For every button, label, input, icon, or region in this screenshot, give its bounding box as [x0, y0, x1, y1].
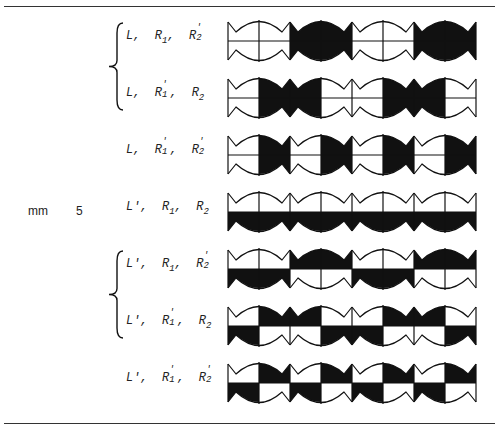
empty-quadrant: [414, 155, 445, 174]
empty-quadrant: [290, 326, 321, 345]
empty-quadrant: [383, 41, 414, 60]
empty-quadrant: [445, 269, 476, 288]
empty-quadrant: [383, 22, 414, 42]
empty-quadrant: [414, 364, 445, 384]
filled-quadrant: [414, 383, 445, 402]
empty-quadrant: [228, 41, 259, 60]
empty-quadrant: [228, 136, 259, 156]
empty-quadrant: [383, 193, 414, 213]
filled-quadrant: [321, 326, 352, 345]
filled-quadrant: [383, 79, 414, 99]
empty-quadrant: [290, 269, 321, 288]
empty-quadrant: [228, 22, 259, 42]
empty-quadrant: [290, 155, 321, 174]
filled-quadrant: [414, 98, 445, 117]
filled-quadrant: [445, 326, 476, 345]
filled-quadrant: [290, 383, 321, 402]
filled-quadrant: [228, 383, 259, 402]
empty-quadrant: [259, 383, 290, 402]
filled-quadrant: [321, 41, 352, 60]
filled-quadrant: [383, 155, 414, 174]
filled-quadrant: [228, 212, 259, 231]
filled-quadrant: [383, 269, 414, 288]
empty-quadrant: [259, 326, 290, 345]
filled-quadrant: [321, 250, 352, 270]
filled-quadrant: [321, 136, 352, 156]
empty-quadrant: [228, 250, 259, 270]
empty-quadrant: [352, 98, 383, 117]
empty-quadrant: [383, 383, 414, 402]
filled-quadrant: [383, 98, 414, 117]
filled-quadrant: [259, 98, 290, 117]
filled-quadrant: [445, 155, 476, 174]
filled-quadrant: [352, 383, 383, 402]
filled-quadrant: [414, 250, 445, 270]
empty-quadrant: [352, 41, 383, 60]
frieze-strip: [228, 20, 476, 62]
frieze-strip: [228, 362, 476, 404]
filled-quadrant: [445, 22, 476, 42]
filled-quadrant: [352, 326, 383, 345]
empty-quadrant: [414, 326, 445, 345]
filled-quadrant: [383, 136, 414, 156]
frieze-strip: [228, 248, 476, 290]
filled-quadrant: [259, 212, 290, 231]
filled-quadrant: [414, 212, 445, 231]
filled-quadrant: [290, 79, 321, 99]
filled-quadrant: [445, 212, 476, 231]
filled-quadrant: [290, 98, 321, 117]
empty-quadrant: [352, 193, 383, 213]
filled-quadrant: [290, 250, 321, 270]
empty-quadrant: [259, 193, 290, 213]
filled-quadrant: [321, 155, 352, 174]
empty-quadrant: [321, 193, 352, 213]
filled-quadrant: [259, 79, 290, 99]
empty-quadrant: [259, 41, 290, 60]
filled-quadrant: [445, 364, 476, 384]
empty-quadrant: [352, 307, 383, 327]
filled-quadrant: [414, 22, 445, 42]
empty-quadrant: [228, 364, 259, 384]
empty-quadrant: [290, 193, 321, 213]
filled-quadrant: [259, 136, 290, 156]
empty-quadrant: [352, 22, 383, 42]
empty-quadrant: [445, 383, 476, 402]
empty-quadrant: [352, 136, 383, 156]
filled-quadrant: [259, 364, 290, 384]
empty-quadrant: [321, 98, 352, 117]
filled-quadrant: [290, 22, 321, 42]
empty-quadrant: [228, 193, 259, 213]
filled-quadrant: [445, 136, 476, 156]
filled-quadrant: [383, 307, 414, 327]
filled-quadrant: [321, 22, 352, 42]
empty-quadrant: [352, 364, 383, 384]
empty-quadrant: [352, 79, 383, 99]
empty-quadrant: [259, 250, 290, 270]
filled-quadrant: [259, 307, 290, 327]
frieze-strip: [228, 305, 476, 347]
empty-quadrant: [321, 79, 352, 99]
frieze-strip: [228, 77, 476, 119]
filled-quadrant: [445, 250, 476, 270]
empty-quadrant: [352, 250, 383, 270]
empty-quadrant: [290, 364, 321, 384]
empty-quadrant: [321, 383, 352, 402]
filled-quadrant: [414, 79, 445, 99]
filled-quadrant: [290, 212, 321, 231]
filled-quadrant: [290, 307, 321, 327]
empty-quadrant: [321, 307, 352, 327]
empty-quadrant: [290, 136, 321, 156]
filled-quadrant: [228, 326, 259, 345]
empty-quadrant: [228, 307, 259, 327]
empty-quadrant: [259, 22, 290, 42]
empty-quadrant: [383, 250, 414, 270]
filled-quadrant: [321, 212, 352, 231]
empty-quadrant: [414, 193, 445, 213]
empty-quadrant: [445, 98, 476, 117]
empty-quadrant: [228, 155, 259, 174]
empty-quadrant: [414, 269, 445, 288]
frieze-strip: [228, 134, 476, 176]
empty-quadrant: [383, 326, 414, 345]
empty-quadrant: [321, 269, 352, 288]
empty-quadrant: [414, 136, 445, 156]
